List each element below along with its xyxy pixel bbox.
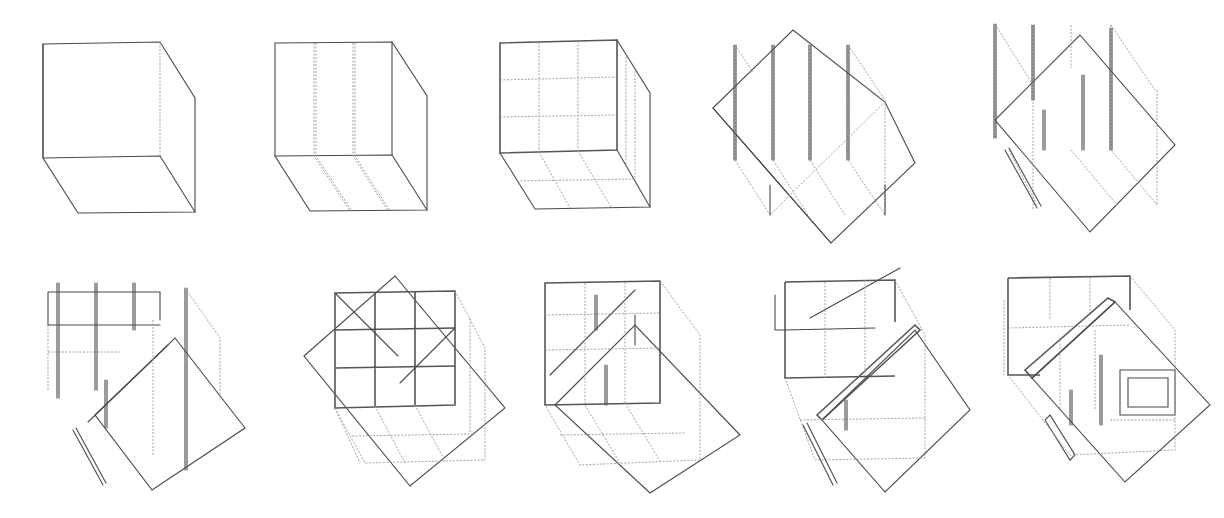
sketch-3-grid-cube: [495, 35, 645, 215]
sketch-2-three-bays: [270, 40, 430, 220]
sketch-5-columns-posts: [975, 20, 1185, 235]
sketch-4-columns-planes: [705, 30, 915, 245]
sketch-8-diagonal-cut: [540, 275, 740, 495]
sketch-1-plain-cube: [38, 40, 198, 220]
sketch-7-dense-grid: [300, 268, 520, 488]
sketch-9-thick-walls: [765, 270, 975, 495]
sketch-6-frame-slab: [40, 280, 245, 495]
sketch-10-final-frame: [1000, 270, 1210, 495]
sketch-sheet: [0, 0, 1224, 518]
